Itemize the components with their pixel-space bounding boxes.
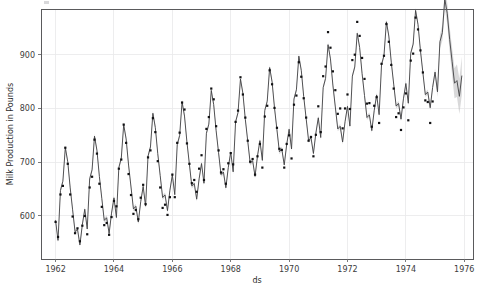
data-point (147, 156, 149, 158)
data-point (110, 216, 112, 218)
x-tick-label: 1966 (162, 265, 182, 274)
data-point (261, 167, 263, 169)
data-point (208, 116, 210, 118)
data-point (210, 87, 212, 89)
y-tick-label: 800 (20, 104, 35, 113)
data-point (69, 193, 71, 195)
data-point (127, 173, 129, 175)
data-point (115, 205, 117, 207)
data-point (303, 97, 305, 99)
data-point (98, 183, 100, 185)
data-point (351, 59, 353, 61)
x-tick-label: 1970 (279, 265, 299, 274)
data-point (76, 227, 78, 229)
data-point (256, 155, 258, 157)
data-point (54, 221, 56, 223)
data-point (103, 224, 105, 226)
data-point (405, 92, 407, 94)
data-point (320, 131, 322, 133)
data-point (120, 158, 122, 160)
data-point (191, 182, 193, 184)
data-point (414, 17, 416, 19)
data-point (203, 179, 205, 181)
data-point (354, 54, 356, 56)
data-point (67, 163, 69, 165)
data-point (79, 240, 81, 242)
data-point (186, 142, 188, 144)
data-point (356, 21, 358, 23)
data-point (176, 142, 178, 144)
data-point (266, 105, 268, 107)
data-point (273, 107, 275, 109)
data-point (130, 194, 132, 196)
data-point (152, 117, 154, 119)
data-point (276, 127, 278, 129)
data-point (429, 122, 431, 124)
data-point (227, 162, 229, 164)
data-point (249, 161, 251, 163)
data-point (410, 60, 412, 62)
data-point (324, 65, 326, 67)
data-point (81, 225, 83, 227)
data-point (334, 89, 336, 91)
data-point (188, 163, 190, 165)
data-point (422, 71, 424, 73)
data-point (271, 83, 273, 85)
data-point (295, 94, 297, 96)
x-axis-label: ds (252, 276, 261, 285)
data-point (140, 197, 142, 199)
data-point (217, 149, 219, 151)
data-point (222, 168, 224, 170)
data-point (149, 149, 151, 151)
data-point (91, 176, 93, 178)
data-point (385, 23, 387, 25)
data-point (171, 173, 173, 175)
data-point (230, 152, 232, 154)
data-point (383, 55, 385, 57)
data-point (312, 155, 314, 157)
data-point (373, 105, 375, 107)
data-point (252, 158, 254, 160)
data-point (281, 149, 283, 151)
data-point (135, 209, 137, 211)
forecast-line (56, 0, 462, 245)
axis-spines (41, 9, 473, 259)
data-point (269, 69, 271, 71)
x-tick-label: 1968 (221, 265, 241, 274)
chart-figure: 19621964196619681970197219741976 6007008… (0, 0, 488, 296)
data-point (205, 128, 207, 130)
milk-production-forecast-chart: 19621964196619681970197219741976 6007008… (0, 0, 488, 296)
data-point (64, 147, 66, 149)
data-point (196, 191, 198, 193)
data-point (164, 204, 166, 206)
data-point (125, 142, 127, 144)
data-point (424, 99, 426, 101)
data-point (349, 108, 351, 110)
data-point (174, 196, 176, 198)
data-point (342, 127, 344, 129)
data-point (162, 207, 164, 209)
data-point (72, 215, 74, 217)
data-point (183, 108, 185, 110)
data-point (254, 173, 256, 175)
data-point (395, 116, 397, 118)
data-point (62, 185, 64, 187)
x-tick-label: 1962 (45, 265, 65, 274)
data-point (123, 123, 125, 125)
data-point (361, 57, 363, 59)
data-point (74, 232, 76, 234)
data-point (198, 168, 200, 170)
observed-data-points (54, 17, 433, 243)
data-point (159, 186, 161, 188)
data-point (259, 143, 261, 145)
data-point (220, 171, 222, 173)
data-point (237, 110, 239, 112)
data-point (393, 87, 395, 89)
data-point (179, 132, 181, 134)
data-point (59, 193, 61, 195)
x-axis-ticks: 19621964196619681970197219741976 (45, 259, 474, 274)
data-point (113, 200, 115, 202)
data-point (232, 163, 234, 165)
data-point (380, 63, 382, 65)
data-point (322, 75, 324, 77)
